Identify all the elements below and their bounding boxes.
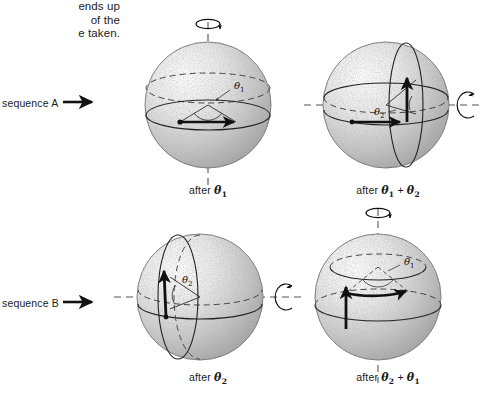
panel-1-caption: after θ1 [108,184,308,199]
caption-theta-1: θ1 [214,184,227,197]
sequence-a-arrow-icon [62,95,102,109]
caption-prefix: after [356,371,378,383]
figure-root: ends up of the e taken. sequence A seque… [0,0,485,395]
panel-after-theta1-plus-theta2: θ2 [288,10,485,195]
caption-prefix: after [356,184,378,196]
caption-prefix: after [189,184,211,196]
intro-text: ends up of the e taken. [0,0,120,41]
sequence-b-label: sequence B [2,297,59,309]
sequence-b-arrow-icon [62,295,102,309]
caption-operator: + [397,184,403,196]
intro-line-2: of the [0,14,120,28]
caption-prefix: after [189,371,211,383]
displacement-arrow-vertical [164,271,166,317]
panel-after-theta2: θ2 [108,205,308,390]
caption-theta-2: θ2 [407,184,420,197]
panel-after-theta1: θ1 [108,10,308,195]
panel-2-caption: after θ1 + θ2 [288,184,485,199]
panel-after-theta2-plus-theta1: θ1 [288,205,485,390]
panel-4-caption: after θ2 + θ1 [288,371,485,386]
caption-theta-1: θ1 [381,184,394,197]
caption-operator: + [397,371,403,383]
sequence-a-label: sequence A [2,97,58,109]
caption-theta-1: θ1 [407,371,420,384]
caption-theta-2: θ2 [214,371,227,384]
intro-line-3: e taken. [0,27,120,41]
intro-line-1: ends up [0,0,120,14]
panel-3-caption: after θ2 [108,371,308,386]
caption-theta-2: θ2 [381,371,394,384]
